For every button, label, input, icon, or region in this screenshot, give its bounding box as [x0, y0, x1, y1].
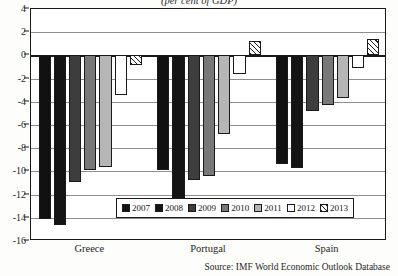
- legend-swatch-2007: [122, 204, 130, 212]
- bar-spain-2010: [322, 55, 334, 105]
- y-tick-label: 2: [0, 26, 26, 37]
- bar-greece-2010: [84, 55, 96, 170]
- legend-item-2007: 2007: [122, 203, 150, 213]
- category-label-greece: Greece: [74, 243, 104, 254]
- legend-label-2011: 2011: [264, 203, 282, 213]
- y-tick-mark: [24, 193, 29, 194]
- legend-label-2007: 2007: [132, 203, 150, 213]
- legend-swatch-2009: [188, 204, 196, 212]
- y-tick-mark: [24, 54, 29, 55]
- gridline-2: [31, 32, 385, 33]
- y-tick-mark: [24, 100, 29, 101]
- legend-item-2013: 2013: [320, 203, 348, 213]
- legend-item-2009: 2009: [188, 203, 216, 213]
- y-tick-mark: [24, 124, 29, 125]
- legend-swatch-2010: [221, 204, 229, 212]
- y-tick-label: -2: [0, 72, 26, 83]
- y-tick-mark: [24, 240, 29, 241]
- legend-item-2011: 2011: [254, 203, 282, 213]
- bar-portugal-2010: [203, 55, 215, 176]
- y-tick-label: -4: [0, 95, 26, 106]
- y-tick-label: -16: [0, 235, 26, 246]
- legend-swatch-2013: [320, 204, 328, 212]
- y-tick-mark: [24, 8, 29, 9]
- bar-portugal-2012: [233, 55, 245, 74]
- y-tick-mark: [24, 77, 29, 78]
- bar-greece-2007: [39, 55, 51, 219]
- bar-portugal-2011: [218, 55, 230, 134]
- legend-swatch-2011: [254, 204, 262, 212]
- category-label-spain: Spain: [315, 243, 339, 254]
- bar-portugal-2007: [157, 55, 169, 170]
- bar-portugal-2008: [172, 55, 184, 203]
- bar-spain-2009: [306, 55, 318, 111]
- y-tick-mark: [24, 216, 29, 217]
- category-label-portugal: Portugal: [190, 243, 226, 254]
- y-tick-mark: [24, 31, 29, 32]
- legend-label-2012: 2012: [297, 203, 315, 213]
- legend-swatch-2008: [155, 204, 163, 212]
- y-tick-mark: [24, 147, 29, 148]
- legend-swatch-2012: [287, 204, 295, 212]
- legend-label-2009: 2009: [198, 203, 216, 213]
- bar-portugal-2009: [188, 55, 200, 179]
- bar-greece-2013: [130, 55, 142, 64]
- y-tick-label: 4: [0, 3, 26, 14]
- bar-spain-2007: [276, 55, 288, 164]
- chart-title: (per cent of GDP): [0, 0, 398, 6]
- legend-item-2012: 2012: [287, 203, 315, 213]
- bar-spain-2013: [367, 39, 379, 55]
- bar-greece-2009: [69, 55, 81, 181]
- y-tick-label: 0: [0, 49, 26, 60]
- legend-item-2010: 2010: [221, 203, 249, 213]
- chart-root: (per cent of GDP) 420-2-4-6-8-10-12-14-1…: [0, 0, 398, 276]
- legend-item-2008: 2008: [155, 203, 183, 213]
- bar-greece-2012: [115, 55, 127, 94]
- bar-greece-2008: [54, 55, 66, 224]
- source-note: Source: IMF World Economic Outlook Datab…: [204, 262, 390, 272]
- bar-spain-2012: [352, 55, 364, 68]
- legend-label-2013: 2013: [330, 203, 348, 213]
- bar-spain-2011: [337, 55, 349, 98]
- bar-spain-2008: [291, 55, 303, 168]
- legend-label-2010: 2010: [231, 203, 249, 213]
- y-tick-label: -12: [0, 188, 26, 199]
- y-tick-label: -14: [0, 211, 26, 222]
- chart-legend: 2007200820092010201120122013: [116, 198, 354, 218]
- y-tick-label: -10: [0, 165, 26, 176]
- legend-label-2008: 2008: [165, 203, 183, 213]
- y-tick-label: -8: [0, 142, 26, 153]
- bar-portugal-2013: [249, 41, 261, 55]
- y-tick-mark: [24, 170, 29, 171]
- y-tick-label: -6: [0, 119, 26, 130]
- gridline--12: [31, 195, 385, 196]
- bar-greece-2011: [99, 55, 111, 166]
